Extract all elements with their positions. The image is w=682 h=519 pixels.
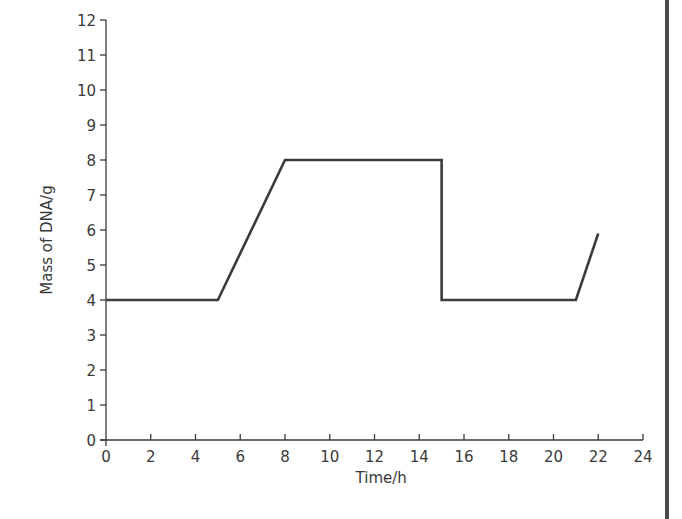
x-tick-label: 6 (235, 448, 245, 466)
y-tick-label: 1 (86, 397, 96, 415)
y-tick-label: 10 (77, 82, 96, 100)
y-tick-label: 9 (86, 117, 96, 135)
y-tick-label: 3 (86, 327, 96, 345)
x-tick-label: 22 (589, 448, 608, 466)
y-tick-label: 8 (86, 152, 96, 170)
x-tick-label: 4 (191, 448, 201, 466)
x-tick-label: 10 (320, 448, 339, 466)
dna-mass-chart: 0123456789101112 024681012141618202224 M… (0, 0, 682, 519)
x-tick-label: 2 (146, 448, 156, 466)
y-tick-label: 5 (86, 257, 96, 275)
x-axis-ticks: 024681012141618202224 (101, 434, 652, 466)
x-axis-title: Time/h (355, 469, 407, 487)
x-tick-label: 16 (454, 448, 473, 466)
y-tick-label: 12 (77, 12, 96, 30)
y-tick-label: 6 (86, 222, 96, 240)
y-tick-label: 11 (77, 47, 96, 65)
y-axis-title: Mass of DNA/g (38, 185, 56, 294)
y-tick-label: 2 (86, 362, 96, 380)
y-axis-ticks: 0123456789101112 (77, 12, 106, 450)
y-tick-label: 7 (86, 187, 96, 205)
dna-mass-line (106, 160, 598, 300)
y-tick-label: 0 (86, 432, 96, 450)
x-tick-label: 8 (280, 448, 290, 466)
y-tick-label: 4 (86, 292, 96, 310)
x-tick-label: 14 (410, 448, 429, 466)
x-tick-label: 24 (633, 448, 652, 466)
x-tick-label: 20 (544, 448, 563, 466)
x-tick-label: 12 (365, 448, 384, 466)
x-tick-label: 0 (101, 448, 111, 466)
x-tick-label: 18 (499, 448, 518, 466)
